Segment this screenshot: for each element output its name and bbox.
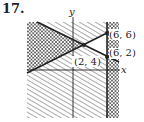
label-6-2: (6, 2) <box>109 47 136 58</box>
label-2-4: (2, 4) <box>74 56 101 67</box>
x-axis-label: x <box>121 64 127 75</box>
y-axis-label: y <box>68 6 75 17</box>
label-6-6: (6, 6) <box>109 29 136 40</box>
inequality-graph: (2, 4) (6, 6) (6, 2) x y <box>0 0 144 122</box>
vertex-2-4 <box>82 43 86 47</box>
